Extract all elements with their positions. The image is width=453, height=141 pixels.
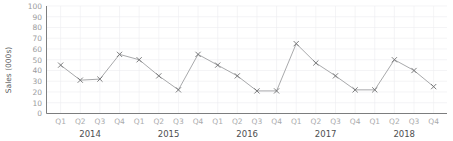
x-tick-label: Q2: [75, 117, 86, 126]
y-tick-label: 30: [32, 77, 42, 86]
x-group-label: 2017: [315, 129, 337, 139]
x-group-label: 2014: [79, 129, 101, 139]
x-tick-label: Q3: [409, 117, 420, 126]
y-axis-title: Sales (000s): [4, 47, 13, 93]
x-tick-label: Q3: [95, 117, 106, 126]
y-tick-label: 50: [32, 56, 42, 65]
x-group-label: 2018: [393, 129, 415, 139]
x-tick-label: Q2: [232, 117, 243, 126]
x-tick-label: Q1: [55, 117, 66, 126]
x-tick-label: Q1: [134, 117, 145, 126]
sales-line-chart: 0102030405060708090100 Q1Q2Q3Q4Q1Q2Q3Q4Q…: [0, 0, 453, 141]
x-tick-label: Q3: [252, 117, 263, 126]
y-tick-label: 40: [32, 66, 42, 75]
x-tick-label: Q2: [311, 117, 322, 126]
x-tick-label: Q3: [330, 117, 341, 126]
y-tick-label: 20: [32, 88, 42, 97]
x-tick-label: Q2: [389, 117, 400, 126]
y-tick-label: 10: [32, 99, 42, 108]
x-axis-tick-labels: Q1Q2Q3Q4Q1Q2Q3Q4Q1Q2Q3Q4Q1Q2Q3Q4Q1Q2Q3Q4: [55, 117, 439, 126]
y-tick-label: 0: [37, 109, 42, 118]
x-tick-label: Q1: [291, 117, 302, 126]
x-group-label: 2015: [158, 129, 180, 139]
x-axis-group-labels: 20142015201620172018: [79, 129, 415, 139]
series-line: [61, 44, 434, 91]
x-tick-label: Q4: [271, 117, 282, 126]
y-tick-label: 90: [32, 13, 42, 22]
x-tick-label: Q3: [173, 117, 184, 126]
y-axis-tick-labels: 0102030405060708090100: [28, 2, 43, 119]
x-tick-label: Q1: [369, 117, 380, 126]
x-group-label: 2016: [236, 129, 258, 139]
x-tick-label: Q1: [212, 117, 223, 126]
y-tick-label: 80: [32, 23, 42, 32]
y-tick-label: 70: [32, 34, 42, 43]
chart-canvas: 0102030405060708090100 Q1Q2Q3Q4Q1Q2Q3Q4Q…: [0, 0, 453, 141]
x-tick-label: Q4: [114, 117, 125, 126]
x-tick-label: Q4: [350, 117, 361, 126]
y-tick-label: 100: [28, 2, 43, 11]
x-tick-label: Q2: [153, 117, 164, 126]
x-tick-label: Q4: [193, 117, 204, 126]
x-tick-label: Q4: [428, 117, 439, 126]
chart-gridlines: [47, 6, 448, 114]
y-tick-label: 60: [32, 45, 42, 54]
